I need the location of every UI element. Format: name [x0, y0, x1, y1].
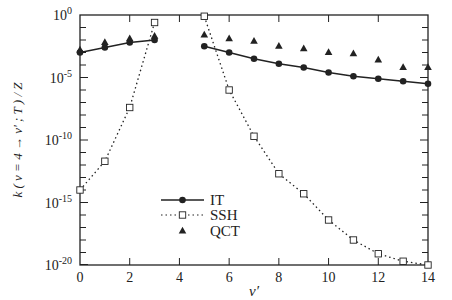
square-marker [151, 19, 157, 25]
circle-marker [102, 44, 109, 51]
x-tick-label: 6 [226, 270, 233, 285]
circle-marker [400, 78, 407, 85]
plot-border [80, 15, 428, 265]
x-tick-label: 10 [322, 270, 336, 285]
circle-marker [425, 80, 432, 87]
circle-marker [350, 73, 357, 80]
legend-label: IT [210, 192, 224, 208]
square-marker [301, 191, 307, 197]
circle-marker [300, 64, 307, 71]
square-marker [77, 187, 83, 193]
circle-marker [325, 69, 332, 76]
square-marker [226, 87, 232, 93]
x-tick-label: 8 [275, 270, 282, 285]
series-line [204, 46, 428, 84]
triangle-marker [275, 42, 283, 49]
triangle-marker [151, 32, 159, 39]
y-tick-label: 100 [53, 5, 72, 23]
x-tick-label: 4 [176, 270, 183, 285]
series-qct [76, 31, 432, 70]
triangle-marker [225, 35, 233, 42]
square-marker [400, 258, 406, 264]
x-axis-label: v′ [249, 283, 260, 299]
circle-marker [226, 49, 233, 56]
x-tick-label: 2 [126, 270, 133, 285]
y-tick-label: 10-20 [45, 255, 72, 273]
square-marker [350, 237, 356, 243]
triangle-marker [101, 38, 109, 45]
legend-label: QCT [210, 223, 240, 239]
series-ssh [77, 13, 431, 268]
square-marker [102, 158, 108, 164]
square-marker [425, 262, 431, 268]
x-tick-label: 12 [371, 270, 385, 285]
plot-frame [80, 15, 428, 265]
square-marker [179, 212, 185, 218]
triangle-marker [300, 45, 308, 52]
x-tick-label: 0 [77, 270, 84, 285]
triangle-marker [350, 50, 358, 57]
series-line [80, 23, 155, 191]
circle-marker [251, 55, 258, 62]
chart-svg: 0246810121410010-510-1010-1510-20 ITSSHQ… [0, 0, 452, 300]
circle-marker [179, 197, 186, 204]
triangle-marker [424, 63, 432, 70]
y-axis-label: k ( v = 4 → v′ ; T ) / Z [10, 82, 25, 198]
triangle-marker [374, 56, 382, 63]
triangle-marker [250, 37, 258, 44]
legend-label: SSH [210, 207, 238, 223]
square-marker [325, 217, 331, 223]
circle-marker [201, 43, 208, 50]
legend: ITSSHQCT [161, 192, 240, 239]
square-marker [201, 13, 207, 19]
chart-container: 0246810121410010-510-1010-1510-20 ITSSHQ… [0, 0, 452, 300]
square-marker [251, 133, 257, 139]
circle-marker [375, 75, 382, 82]
square-marker [276, 171, 282, 177]
data-series [76, 13, 432, 268]
series-line [80, 40, 155, 53]
legend-item-qct: QCT [179, 223, 240, 239]
triangle-marker [325, 48, 333, 55]
triangle-marker [179, 227, 187, 234]
legend-item-it: IT [161, 192, 224, 208]
square-marker [127, 104, 133, 110]
triangle-marker [200, 31, 208, 38]
y-tick-label: 10-5 [50, 68, 72, 86]
triangle-marker [399, 63, 407, 70]
triangle-marker [76, 46, 84, 53]
y-tick-label: 10-15 [45, 193, 72, 211]
circle-marker [276, 60, 283, 67]
triangle-marker [126, 35, 134, 42]
y-tick-label: 10-10 [45, 130, 72, 148]
x-tick-label: 14 [421, 270, 435, 285]
legend-item-ssh: SSH [161, 207, 238, 223]
square-marker [375, 251, 381, 257]
